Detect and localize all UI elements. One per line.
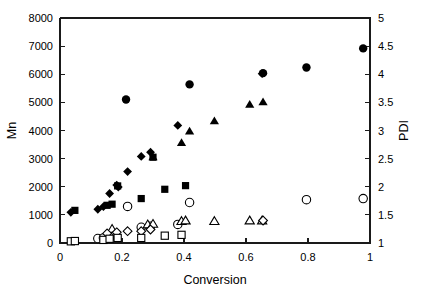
x-axis-tick-label: 0.8 xyxy=(300,251,315,263)
data-point xyxy=(259,69,267,77)
data-point xyxy=(71,237,78,244)
data-point xyxy=(302,195,310,203)
y-axis-tick-label: 1000 xyxy=(29,209,53,221)
scatter-plot: 01000200030004000500060007000800011.522.… xyxy=(0,0,423,291)
y2-axis-tick-label: 3 xyxy=(378,125,384,137)
data-point xyxy=(138,234,145,241)
data-point xyxy=(173,121,182,130)
data-point xyxy=(106,235,113,242)
x-axis-tick-label: 0 xyxy=(57,251,63,263)
data-point xyxy=(210,117,219,125)
x-axis-tick-label: 0.2 xyxy=(114,251,129,263)
series-2 xyxy=(148,97,267,160)
data-point xyxy=(177,138,186,146)
x-axis-tick-label: 1 xyxy=(367,251,373,263)
y-axis-tick-label: 7000 xyxy=(29,40,53,52)
y-axis-tick-label: 0 xyxy=(47,237,53,249)
data-point xyxy=(114,182,121,189)
x-axis-tick-label: 0.4 xyxy=(176,251,191,263)
y-axis-tick-label: 8000 xyxy=(29,12,53,24)
data-point xyxy=(138,195,145,202)
data-point xyxy=(182,182,189,189)
series-3 xyxy=(122,44,368,104)
data-point xyxy=(178,231,185,238)
y2-axis-tick-label: 4 xyxy=(378,68,384,80)
data-point xyxy=(359,44,367,52)
data-point xyxy=(71,207,78,214)
y2-axis-tick-label: 1.5 xyxy=(378,209,393,221)
data-point xyxy=(114,234,121,241)
data-point xyxy=(185,127,194,135)
y2-axis-tick-label: 2.5 xyxy=(378,153,393,165)
x-axis-tick-label: 0.6 xyxy=(238,251,253,263)
y-axis-tick-label: 6000 xyxy=(29,68,53,80)
y2-axis-tick-label: 1 xyxy=(378,237,384,249)
data-point xyxy=(258,97,267,105)
data-point xyxy=(123,227,132,236)
data-point xyxy=(161,186,168,193)
series-0 xyxy=(66,69,266,216)
data-point xyxy=(105,189,114,198)
y2-axis-tick-label: 4.5 xyxy=(378,40,393,52)
data-point xyxy=(123,202,131,210)
data-point xyxy=(123,167,132,176)
data-point xyxy=(137,152,146,161)
data-point xyxy=(108,201,115,208)
data-point xyxy=(245,216,254,224)
series-4 xyxy=(94,194,368,242)
x-axis-title: Conversion xyxy=(183,273,246,287)
y2-axis-title: PDI xyxy=(397,120,411,141)
data-point xyxy=(161,232,168,239)
data-point xyxy=(210,217,219,225)
y2-axis-tick-label: 2 xyxy=(378,181,384,193)
data-point xyxy=(185,198,193,206)
data-point xyxy=(185,80,193,88)
y-axis-tick-label: 4000 xyxy=(29,125,53,137)
data-point xyxy=(359,194,367,202)
y2-axis-tick-label: 3.5 xyxy=(378,96,393,108)
y2-axis-tick-label: 5 xyxy=(378,12,384,24)
plot-frame xyxy=(60,18,370,243)
data-point xyxy=(122,95,130,103)
y-axis-title: Mn xyxy=(5,122,19,139)
y-axis-tick-label: 2000 xyxy=(29,181,53,193)
data-point xyxy=(302,63,310,71)
chart-figure: 01000200030004000500060007000800011.522.… xyxy=(0,0,423,291)
y-axis-tick-label: 3000 xyxy=(29,153,53,165)
y-axis-tick-label: 5000 xyxy=(29,96,53,108)
data-point xyxy=(245,100,254,108)
